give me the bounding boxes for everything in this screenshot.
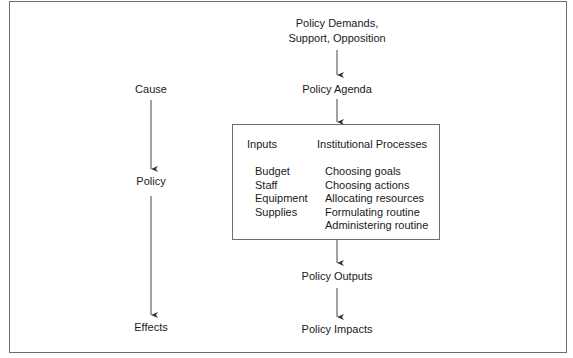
- input-item: Equipment: [255, 192, 308, 206]
- process-item: Formulating routine: [325, 206, 428, 220]
- node-cause: Cause: [135, 83, 167, 96]
- process-item: Allocating resources: [325, 192, 428, 206]
- node-policy-agenda: Policy Agenda: [302, 83, 372, 96]
- inputs-list: Budget Staff Equipment Supplies: [255, 165, 308, 219]
- node-policy-impacts: Policy Impacts: [302, 323, 373, 336]
- process-item: Choosing actions: [325, 179, 428, 193]
- input-item: Budget: [255, 165, 308, 179]
- process-item: Administering routine: [325, 219, 428, 233]
- node-policy-demands-line2: Support, Opposition: [288, 32, 385, 45]
- process-item: Choosing goals: [325, 165, 428, 179]
- processes-list: Choosing goals Choosing actions Allocati…: [325, 165, 428, 233]
- node-policy: Policy: [136, 175, 165, 188]
- node-effects: Effects: [134, 321, 167, 334]
- input-item: Staff: [255, 179, 308, 193]
- inputs-header: Inputs: [247, 138, 277, 151]
- node-policy-demands-line1: Policy Demands,: [296, 17, 379, 30]
- input-item: Supplies: [255, 206, 308, 220]
- node-policy-outputs: Policy Outputs: [302, 270, 373, 283]
- processes-header: Institutional Processes: [317, 138, 427, 151]
